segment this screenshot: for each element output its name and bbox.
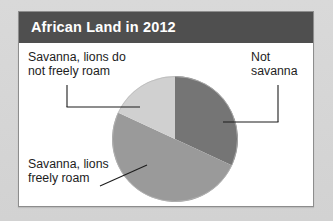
leader-line-savanna-not-freely-roam bbox=[66, 84, 146, 112]
card-header: African Land in 2012 bbox=[19, 12, 313, 43]
label-savanna-not-freely-roam: Savanna, lions do not freely roam bbox=[28, 50, 126, 79]
page-title: African Land in 2012 bbox=[31, 19, 176, 35]
page-background: African Land in 2012 bbox=[0, 0, 333, 221]
label-not-savanna: Not savanna bbox=[251, 50, 298, 79]
label-savanna-freely-roam: Savanna, lions freely roam bbox=[28, 157, 109, 186]
leader-line-not-savanna bbox=[222, 84, 280, 124]
